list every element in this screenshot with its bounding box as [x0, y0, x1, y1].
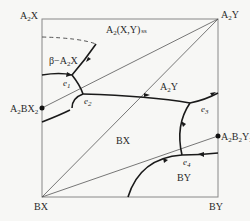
phase-diagram: A2X A2Y BX BY A2BX2 A2B2Y3 A2(X,Y)ss β−A…	[0, 0, 250, 221]
field-label-beta-a2x: β−A2X	[49, 55, 78, 68]
corner-label-by: BY	[209, 201, 223, 212]
eutectic-label-e1: e1	[63, 78, 71, 90]
field-label-a2xy-ss: A2(X,Y)ss	[106, 24, 147, 37]
join-bx-a2y	[42, 19, 218, 197]
field-label-by: BY	[177, 172, 191, 183]
arrow-icon	[66, 72, 72, 77]
field-label-a2y: A2Y	[160, 81, 178, 94]
field-label-bx: BX	[116, 135, 131, 146]
compound-dot-a2bx2	[40, 106, 45, 111]
arrow-icon	[163, 158, 168, 163]
eutectic-label-e3: e3	[201, 104, 209, 116]
corner-label-bx: BX	[34, 201, 49, 212]
beta-boundary-dashed	[42, 37, 96, 44]
eutectic-label-e4: e4	[183, 157, 191, 169]
corner-label-a2x: A2X	[20, 10, 39, 23]
curve-e4-to-bottom	[128, 155, 182, 197]
curve-e2-down	[72, 94, 83, 108]
join-bx-a2b2y3	[42, 136, 218, 197]
curve-e3-to-edge	[190, 93, 218, 103]
compound-dot-a2b2y3	[216, 134, 221, 139]
corner-label-a2y: A2Y	[221, 9, 239, 22]
curve-a2bx2-lower	[42, 110, 70, 122]
curve-e1-to-e2	[72, 75, 83, 94]
eutectic-label-e2: e2	[84, 96, 92, 108]
arrow-icon	[144, 93, 150, 97]
compound-label-a2b2y3: A2B2Y3	[221, 131, 250, 144]
compound-label-a2bx2: A2BX2	[10, 103, 39, 116]
